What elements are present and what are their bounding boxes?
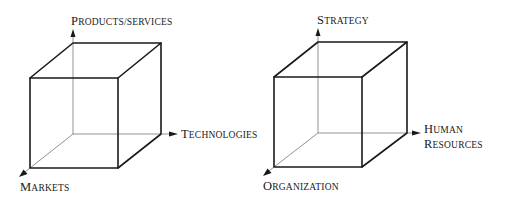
cube-right-face <box>362 42 407 167</box>
business-cube: PRODUCTS/SERVICES TECHNOLOGIES MARKETS <box>19 14 258 194</box>
axis-label-markets: MARKETS <box>20 180 69 194</box>
depth-axis-line <box>274 133 318 167</box>
down-left-arrow-icon <box>19 170 28 178</box>
up-arrow-icon <box>71 29 76 37</box>
axis-label-human-resources-line1: HUMAN <box>424 122 463 136</box>
axis-label-human-resources-line2: RESOURCES <box>424 137 483 151</box>
axis-label-technologies: TECHNOLOGIES <box>181 127 258 141</box>
up-arrow-icon <box>316 28 321 36</box>
cube-top-face <box>30 43 161 78</box>
organization-cube: STRATEGY HUMAN RESOURCES ORGANIZATION <box>263 13 483 193</box>
axis-label-organization: ORGANIZATION <box>263 179 339 193</box>
cube-right-face <box>118 43 161 168</box>
axis-label-products-services: PRODUCTS/SERVICES <box>71 14 172 28</box>
cube-diagrams: PRODUCTS/SERVICES TECHNOLOGIES MARKETS S… <box>0 0 505 202</box>
cube-top-face <box>274 42 407 77</box>
axis-label-strategy: STRATEGY <box>317 13 369 27</box>
depth-axis-line <box>30 134 73 168</box>
right-arrow-icon <box>412 131 421 136</box>
down-left-arrow-icon <box>263 169 272 177</box>
cube-front-face <box>30 78 118 168</box>
right-arrow-icon <box>169 132 178 137</box>
